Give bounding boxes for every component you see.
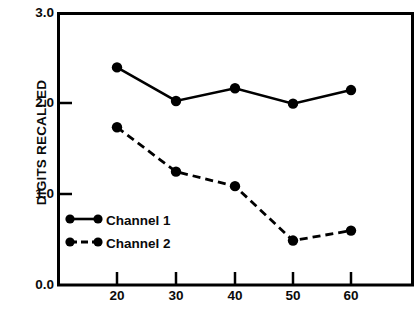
data-point (230, 181, 240, 191)
data-point (171, 96, 181, 106)
axis-frame (59, 14, 413, 286)
series-channel-2-markers (112, 122, 356, 246)
plot-area (0, 0, 419, 324)
series-channel-2 (112, 122, 356, 246)
legend-swatch-channel-1 (65, 214, 102, 223)
x-axis-ticks (117, 272, 351, 285)
series-channel-1 (112, 62, 356, 109)
data-point (112, 122, 122, 132)
data-point (346, 225, 356, 235)
y-axis-ticks (58, 103, 72, 194)
data-point (112, 62, 122, 72)
data-point (346, 85, 356, 95)
legend (65, 214, 102, 246)
data-point (230, 83, 240, 93)
data-point (171, 166, 181, 176)
data-point (288, 98, 298, 108)
chart-figure: DIGITS RECALLED 3.0 2.0 1.0 0.0 20 30 40… (0, 0, 419, 324)
data-point (288, 235, 298, 245)
legend-swatch-channel-2 (65, 237, 102, 246)
